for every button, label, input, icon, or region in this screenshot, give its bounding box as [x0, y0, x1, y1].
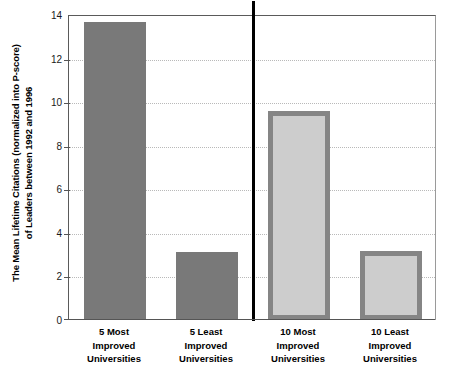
y-axis-tick-label: 14 [40, 10, 62, 21]
x-axis-label-line: Universities [252, 352, 344, 366]
y-axis-tick-label: 8 [40, 140, 62, 151]
x-axis-label: 5 MostImprovedUniversities [68, 325, 160, 366]
y-axis-tick-label: 6 [40, 184, 62, 195]
y-axis-tickmark [64, 103, 70, 104]
x-axis-label-line: Universities [68, 352, 160, 366]
bar-chart: The Mean Lifetime Citations (normalized … [0, 0, 449, 379]
plot-inner [69, 16, 435, 320]
plot-area [68, 15, 436, 320]
group-divider [252, 1, 255, 321]
y-axis-tick-label: 12 [40, 53, 62, 64]
y-axis-tickmark [64, 60, 70, 61]
x-axis-label: 5 LeastImprovedUniversities [160, 325, 252, 366]
x-axis-label: 10 MostImprovedUniversities [252, 325, 344, 366]
x-axis-label-line: Universities [344, 352, 436, 366]
x-axis-label-line: 10 Least [344, 325, 436, 339]
y-axis-tick-label: 10 [40, 97, 62, 108]
y-axis-tickmark [64, 190, 70, 191]
y-axis-tick-label: 0 [40, 315, 62, 326]
x-axis-label-line: Improved [160, 339, 252, 353]
bar [176, 252, 238, 320]
x-axis-label-line: 10 Most [252, 325, 344, 339]
y-axis-tickmark [64, 147, 70, 148]
x-axis-label-line: Improved [344, 339, 436, 353]
x-axis-label-line: 5 Most [68, 325, 160, 339]
x-axis-baseline [69, 319, 435, 320]
x-axis-label: 10 LeastImprovedUniversities [344, 325, 436, 366]
x-axis-label-line: 5 Least [160, 325, 252, 339]
x-axis-label-line: Improved [252, 339, 344, 353]
y-axis-tickmark [64, 234, 70, 235]
x-axis-baseline-tick [64, 319, 70, 320]
y-axis-tick-label: 2 [40, 271, 62, 282]
x-axis-label-line: Universities [160, 352, 252, 366]
bar [360, 251, 422, 320]
y-axis-tickmark [64, 277, 70, 278]
y-axis-tick-labels: 02468101214 [34, 0, 62, 379]
x-axis-labels: 5 MostImprovedUniversities5 LeastImprove… [68, 325, 436, 379]
y-axis-tick-label: 4 [40, 227, 62, 238]
x-axis-label-line: Improved [68, 339, 160, 353]
bar [268, 111, 330, 320]
bar [84, 22, 146, 320]
y-axis-title-line-1: The Mean Lifetime Citations (normalized … [9, 44, 22, 282]
